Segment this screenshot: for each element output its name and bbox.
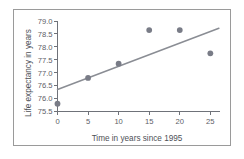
line-of-best-fit: [58, 28, 219, 89]
data-point-marker: [146, 27, 152, 33]
x-tick-label: 20: [176, 117, 184, 126]
scatter-plot-canvas: Life expectancy in years 75.576.076.577.…: [0, 0, 244, 159]
x-tick-label: 5: [86, 117, 90, 126]
x-axis-title: Time in years since 1995: [92, 134, 183, 143]
data-point-marker: [85, 75, 91, 81]
y-tick-label: 76.5: [38, 81, 53, 90]
data-point-marker: [116, 61, 122, 67]
data-point-marker: [55, 101, 61, 107]
trend-line-series: [58, 28, 219, 89]
x-axis-ticks: 0510152025: [55, 112, 214, 126]
data-point-marker: [177, 27, 183, 33]
y-tick-label: 79.0: [38, 17, 53, 26]
y-tick-label: 77.0: [38, 69, 53, 78]
y-axis-ticks: 75.576.076.577.077.578.078.579.0: [38, 17, 58, 117]
y-tick-label: 78.0: [38, 43, 53, 52]
y-tick-label: 78.5: [38, 30, 53, 39]
y-axis-title: Life expectancy in years: [24, 29, 33, 117]
y-tick-label: 76.0: [38, 94, 53, 103]
x-tick-label: 0: [55, 117, 59, 126]
y-tick-label: 77.5: [38, 56, 53, 65]
chart-figure: Life expectancy in years 75.576.076.577.…: [0, 0, 244, 159]
axis-lines: [58, 21, 220, 112]
x-tick-label: 10: [114, 117, 122, 126]
x-tick-label: 15: [145, 117, 153, 126]
data-point-marker: [207, 50, 213, 56]
y-tick-label: 75.5: [38, 107, 53, 116]
x-tick-label: 25: [206, 117, 214, 126]
